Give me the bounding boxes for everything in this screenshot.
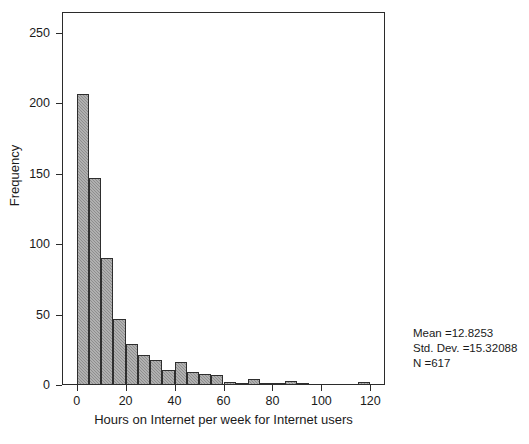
x-tick-label: 120: [350, 395, 390, 408]
histogram-bar: [224, 382, 236, 385]
x-tick-label: 40: [155, 395, 195, 408]
statistics-annotation: Mean =12.8253 Std. Dev. =15.32088 N =617: [413, 326, 517, 372]
histogram-bar: [297, 383, 309, 385]
histogram-figure: 050100150200250 020406080100120 Frequenc…: [0, 0, 529, 444]
histogram-bar: [211, 375, 223, 385]
histogram-bar: [187, 372, 199, 385]
y-tick-mark: [56, 244, 62, 245]
sample-size-stat: N =617: [413, 356, 517, 371]
x-tick-label: 100: [301, 395, 341, 408]
y-tick-mark: [56, 103, 62, 104]
y-tick-label: 50: [6, 309, 50, 322]
x-tick-mark: [370, 385, 371, 391]
x-tick-mark: [77, 385, 78, 391]
std-dev-stat: Std. Dev. =15.32088: [413, 341, 517, 356]
x-tick-mark: [175, 385, 176, 391]
histogram-bar: [248, 379, 260, 385]
histogram-bar: [89, 178, 101, 385]
x-tick-label: 60: [204, 395, 244, 408]
histogram-bar: [272, 383, 284, 385]
histogram-bar: [199, 374, 211, 385]
x-tick-mark: [126, 385, 127, 391]
y-tick-mark: [56, 315, 62, 316]
x-tick-label: 0: [57, 395, 97, 408]
histogram-bar: [126, 344, 138, 385]
histogram-bar: [358, 382, 370, 385]
histogram-bar: [150, 360, 162, 385]
x-tick-mark: [321, 385, 322, 391]
x-tick-label: 80: [252, 395, 292, 408]
histogram-bar: [101, 258, 113, 385]
y-tick-mark: [56, 33, 62, 34]
histogram-bar: [285, 381, 297, 385]
histogram-bar: [236, 383, 248, 385]
histogram-bar: [175, 362, 187, 385]
histogram-bar: [162, 370, 174, 385]
y-axis-label: Frequency: [7, 96, 22, 256]
mean-stat: Mean =12.8253: [413, 326, 517, 341]
histogram-bar: [260, 383, 272, 385]
y-tick-mark: [56, 385, 62, 386]
y-tick-label: 0: [6, 379, 50, 392]
histogram-bar: [138, 355, 150, 385]
histogram-bar: [77, 94, 89, 385]
histogram-bars: [62, 12, 385, 385]
x-tick-mark: [224, 385, 225, 391]
y-tick-mark: [56, 174, 62, 175]
y-tick-label: 250: [6, 27, 50, 40]
x-axis-label: Hours on Internet per week for Internet …: [62, 412, 385, 427]
histogram-bar: [113, 319, 125, 385]
x-tick-mark: [272, 385, 273, 391]
x-tick-label: 20: [106, 395, 146, 408]
